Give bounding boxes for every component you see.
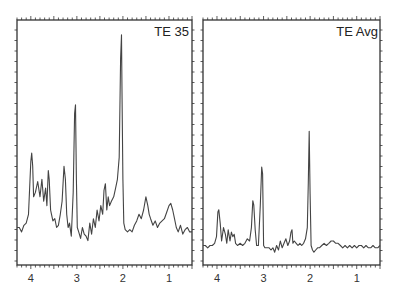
x-tick-labels: 4321 — [214, 272, 360, 284]
x-tick-label: 3 — [74, 272, 80, 284]
plot-frame — [203, 20, 380, 265]
plot-frame — [17, 20, 192, 265]
x-tick-label: 4 — [28, 272, 34, 284]
x-tick-labels: 4321 — [28, 272, 172, 284]
spectrum-trace — [17, 35, 192, 241]
x-tick-label: 3 — [260, 272, 266, 284]
spectrum-trace — [203, 131, 380, 252]
panel-te35: 4321 TE 35 — [15, 16, 195, 284]
axis-ticks — [15, 16, 195, 269]
panel-te-avg: 4321 TE Avg — [201, 16, 383, 284]
x-tick-label: 1 — [166, 272, 172, 284]
panel-title: TE 35 — [154, 24, 189, 39]
spectra-figure: 4321 TE 35 4321 TE Avg — [0, 0, 399, 296]
panel-title: TE Avg — [336, 24, 378, 39]
x-tick-label: 4 — [214, 272, 220, 284]
x-tick-label: 2 — [307, 272, 313, 284]
x-tick-label: 1 — [354, 272, 360, 284]
x-tick-label: 2 — [120, 272, 126, 284]
